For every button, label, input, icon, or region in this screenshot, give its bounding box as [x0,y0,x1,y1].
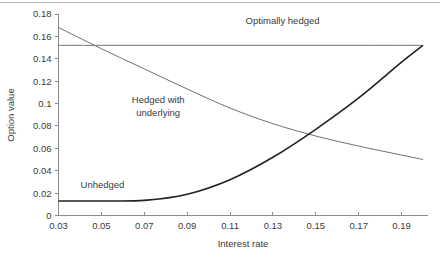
y-tick-label: 0.04 [33,165,52,176]
y-tick-label: 0.1 [38,98,51,109]
series-annotation-label: underlying [136,107,180,118]
x-tick-label: 0.13 [264,220,283,231]
series-annotations: Optimally hedgedHedged withunderlyingUnh… [81,15,320,190]
x-tick-label: 0.09 [178,220,197,231]
x-axis-title: Interest rate [218,238,269,249]
y-tick-label: 0.12 [33,76,52,87]
series-annotation-label: Unhedged [81,179,125,190]
y-tick-label: 0.06 [33,143,52,154]
y-tick-label: 0.16 [33,31,52,42]
option-value-vs-interest-rate-chart: 00.020.040.060.080.10.120.140.160.18 0.0… [0,0,440,257]
y-tick-label: 0.18 [33,8,52,19]
x-tick-label: 0.17 [349,220,368,231]
x-tick-label: 0.11 [221,220,239,231]
chart-figure: 00.020.040.060.080.10.120.140.160.18 0.0… [0,0,440,257]
x-tick-label: 0.07 [135,220,154,231]
series-annotation-label: Hedged with [132,94,185,105]
series-annotation-label: Optimally hedged [246,15,320,26]
series-line-unhedged [59,45,424,201]
series-line-hedged-with-underlying [59,27,424,159]
y-tick-label: 0.14 [33,53,52,64]
y-tick-label: 0.08 [33,120,52,131]
x-axis-ticks [59,212,402,216]
x-axis-tick-labels: 0.030.050.070.090.110.130.150.170.19 [49,220,411,231]
y-tick-label: 0.02 [33,188,52,199]
y-axis-ticks [55,14,59,216]
x-tick-label: 0.05 [92,220,111,231]
x-tick-label: 0.15 [307,220,326,231]
y-axis-title: Option value [5,88,16,141]
y-axis-tick-labels: 00.020.040.060.080.10.120.140.160.18 [33,8,52,221]
x-tick-label: 0.19 [392,220,411,231]
data-series-group [59,27,424,201]
x-tick-label: 0.03 [49,220,68,231]
